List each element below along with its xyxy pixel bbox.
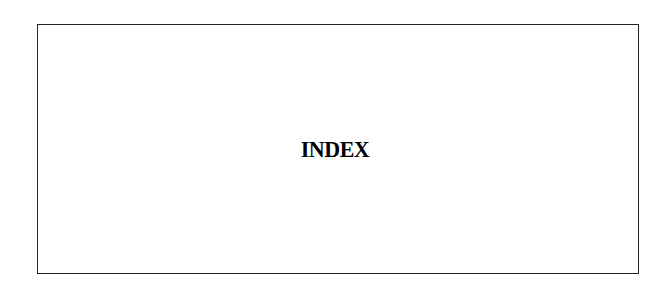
page-title: INDEX: [0, 135, 670, 163]
